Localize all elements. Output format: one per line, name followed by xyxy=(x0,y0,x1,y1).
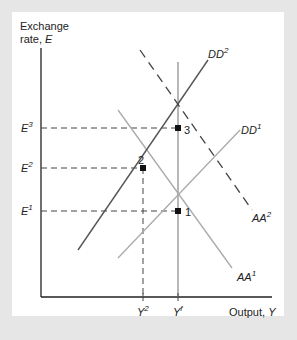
y-tick-e3: E3 xyxy=(21,120,33,134)
curve-sup: 2 xyxy=(223,46,229,55)
y-axis-label-line1: Exchange xyxy=(20,20,69,32)
dd2-label: DD2 xyxy=(208,46,229,60)
tick-sup: 2 xyxy=(143,304,149,313)
chart-svg: 1 2 3 Exchange rate, E E3 E2 E1 Y2 Yf Ou… xyxy=(0,0,297,340)
dd1-label: DD1 xyxy=(241,122,261,136)
curve-name: DD xyxy=(241,124,257,136)
curve-name: AA xyxy=(251,212,267,224)
x-axis-label: Output, Y xyxy=(229,306,276,318)
aa1-label: AA1 xyxy=(236,269,256,283)
curve-sup: 1 xyxy=(257,122,261,131)
aa2-curve xyxy=(140,50,252,210)
tick-sup: 1 xyxy=(28,203,32,212)
curve-sup: 1 xyxy=(252,269,256,278)
point-label-2: 2 xyxy=(138,154,144,166)
y-axis-label-text: rate, xyxy=(20,33,45,45)
equilibrium-point-1 xyxy=(175,208,181,214)
curve-name: AA xyxy=(236,271,252,283)
tick-sup: 3 xyxy=(28,120,33,129)
curve-sup: 2 xyxy=(266,210,272,219)
aa2-label: AA2 xyxy=(251,210,272,224)
x-axis-label-var: Y xyxy=(268,306,276,318)
x-tick-y2: Y2 xyxy=(137,304,149,318)
y-axis-label-var: E xyxy=(45,33,53,45)
aa1-curve xyxy=(118,110,232,268)
point-label-3: 3 xyxy=(184,124,190,136)
tick-sup: f xyxy=(180,304,183,313)
y-tick-e2: E2 xyxy=(21,160,33,174)
x-axis-label-text: Output, xyxy=(229,306,268,318)
y-axis-label-line2: rate, E xyxy=(20,33,53,45)
x-tick-yf: Yf xyxy=(173,304,183,318)
curve-name: DD xyxy=(208,48,224,60)
point-label-1: 1 xyxy=(185,206,191,218)
y-tick-e1: E1 xyxy=(21,203,33,217)
tick-sup: 2 xyxy=(27,160,33,169)
equilibrium-point-3 xyxy=(175,125,181,131)
